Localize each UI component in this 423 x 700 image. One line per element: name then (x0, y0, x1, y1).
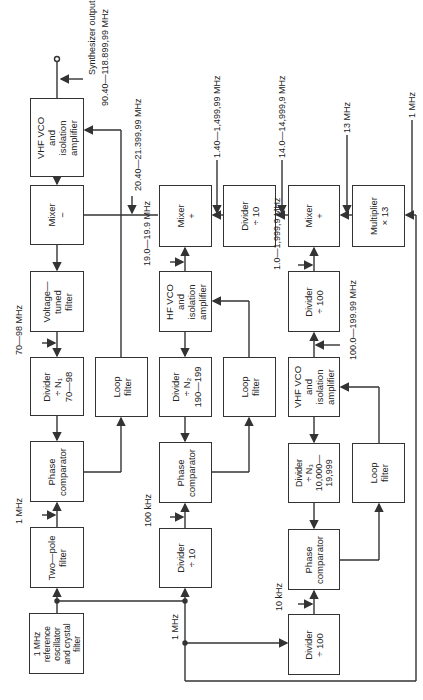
block-text: Mixer (46, 203, 57, 226)
loop-filter-2-block: Loopfilter (223, 357, 276, 417)
block-text: − (57, 203, 68, 226)
label-synthesizer-output: Synthesizer output (87, 0, 97, 75)
label-14-0-mhz: 14.0—14,999,9 MHz (277, 75, 287, 158)
mixer-plus-2-block: Mixer+ (288, 185, 340, 247)
mixer-minus-block: Mixer− (30, 185, 84, 245)
block-text: Phase (175, 448, 186, 496)
multiplier-13-block: Multiplier× 13 (352, 185, 405, 247)
block-text: amplifier (68, 116, 79, 158)
block-text: and (46, 116, 57, 158)
block-text: Mixer (303, 204, 314, 227)
block-text: filter (57, 535, 68, 580)
block-text: filter (63, 281, 74, 322)
label-1-mhz-bus: 1 MHz (170, 614, 180, 640)
phase-comparator-2-block: Phasecomparator (159, 442, 212, 503)
label-100-0-mhz: 100.0—199.99 MHz (348, 280, 358, 360)
block-text: ÷ N₂ (180, 366, 191, 407)
block-text: × 13 (379, 197, 390, 235)
label-13-mhz: 13 MHz (342, 102, 352, 133)
label-1-40-mhz: 1.40—1,499,99 MHz (212, 75, 222, 158)
block-text: Phase (303, 535, 314, 583)
block-text: 190—199 (191, 366, 202, 407)
label-70-98-mhz: 70—98 MHz (14, 305, 24, 355)
block-text: amplifier (325, 366, 336, 408)
block-text: isolation (57, 116, 68, 158)
block-text: Divider (41, 371, 52, 402)
block-text: comparator (314, 535, 325, 583)
label-19-0-mhz: 19.0—19.9 MHz (142, 201, 152, 266)
mixer-plus-1-block: Mixer+ (159, 185, 212, 247)
label-1-mhz-multiplier: 1 MHz (407, 92, 417, 118)
block-text: ÷ N₁ (52, 371, 63, 402)
label-1-0-mhz: 1.0—1,999,9 MHz (272, 197, 282, 270)
label-10-khz: 10 kHz (274, 583, 284, 611)
block-text: Divider (239, 201, 250, 231)
block-text: Phase (46, 447, 57, 495)
block-text: Divider (303, 630, 314, 660)
block-text: 1 MHz (32, 623, 42, 664)
block-text: Divider (175, 543, 186, 573)
block-text: Two—pole (46, 535, 57, 580)
loop-filter-3-block: Loopfilter (352, 443, 405, 503)
block-text: and crystal (62, 623, 72, 664)
label-20-40-mhz: 20.40—21.399,99 MHz (133, 98, 143, 191)
block-text: + (186, 204, 197, 227)
block-text: VHF VCO (292, 366, 303, 408)
block-text: and (175, 284, 186, 320)
block-text: and (303, 366, 314, 408)
block-text: isolation (186, 284, 197, 320)
voltage-tuned-filter-block: Voltage—tunedfilter (30, 271, 84, 332)
block-text: Loop (111, 376, 122, 397)
block-text: Divider (303, 287, 314, 317)
loop-filter-1-block: Loopfilter (95, 357, 148, 417)
block-text: + (314, 204, 325, 227)
block-text: Multiplier (368, 197, 379, 235)
block-text: HF VCO (164, 284, 175, 320)
block-text: 10,000— (314, 455, 324, 492)
block-text: filter (72, 623, 82, 664)
block-text: filter (379, 462, 390, 483)
phase-comparator-3-block: Phasecomparator (288, 529, 340, 590)
block-text: Loop (239, 376, 250, 397)
divider-n1-block: Divider÷ N₁70—98 (30, 357, 84, 416)
block-text: Divider (294, 455, 304, 492)
divider-n2-block: Divider÷ N₂190—199 (159, 357, 212, 417)
block-text: filter (250, 376, 261, 397)
block-text: Mixer (175, 204, 186, 227)
block-text: ÷ N₃ (304, 455, 314, 492)
label-100-khz: 100 kHz (143, 494, 153, 527)
block-text: tuned (52, 281, 63, 322)
two-pole-filter-block: Two—polefilter (30, 527, 84, 588)
block-text: amplifier (197, 284, 208, 320)
block-text: reference (42, 623, 52, 664)
block-text: Voltage— (41, 281, 52, 322)
reference-oscillator-block: 1 MHzreferenceoscillatorand crystalfilte… (29, 613, 84, 674)
divider-10-low-block: Divider÷ 10 (159, 528, 212, 588)
divider-n3-block: Divider÷ N₃10,000—19,999 (288, 443, 340, 503)
block-text: 70—98 (63, 371, 74, 402)
block-text: ÷ 100 (314, 630, 325, 660)
block-text: comparator (186, 448, 197, 496)
block-text: Divider (169, 366, 180, 407)
phase-comparator-1-block: Phasecomparator (30, 441, 84, 502)
block-text: filter (122, 376, 133, 397)
block-text: ÷ 10 (186, 543, 197, 573)
divider-100-top-block: Divider÷ 100 (288, 271, 340, 332)
vhf-vco-output-block: VHF VCOandisolationamplifier (30, 98, 84, 177)
label-1-mhz-phase-comparator: 1 MHz (14, 498, 24, 524)
vhf-vco-2-block: VHF VCOandisolationamplifier (288, 357, 340, 417)
label-synthesizer-output-range: 90.40—118.899,99 MHz (100, 9, 110, 106)
block-text: isolation (314, 366, 325, 408)
block-text: 19,999 (324, 455, 334, 492)
hf-vco-block: HF VCOandisolationamplifier (159, 271, 212, 332)
block-diagram: VHF VCOandisolationamplifier Mixer− Volt… (0, 0, 423, 700)
divider-100-low-block: Divider÷ 100 (288, 614, 340, 675)
block-text: oscillator (52, 623, 62, 664)
block-text: ÷ 10 (250, 201, 261, 231)
block-text: Loop (368, 462, 379, 483)
block-text: VHF VCO (35, 116, 46, 158)
divider-10-top-block: Divider÷ 10 (223, 185, 276, 247)
block-text: ÷ 100 (314, 287, 325, 317)
block-text: comparator (57, 447, 68, 495)
